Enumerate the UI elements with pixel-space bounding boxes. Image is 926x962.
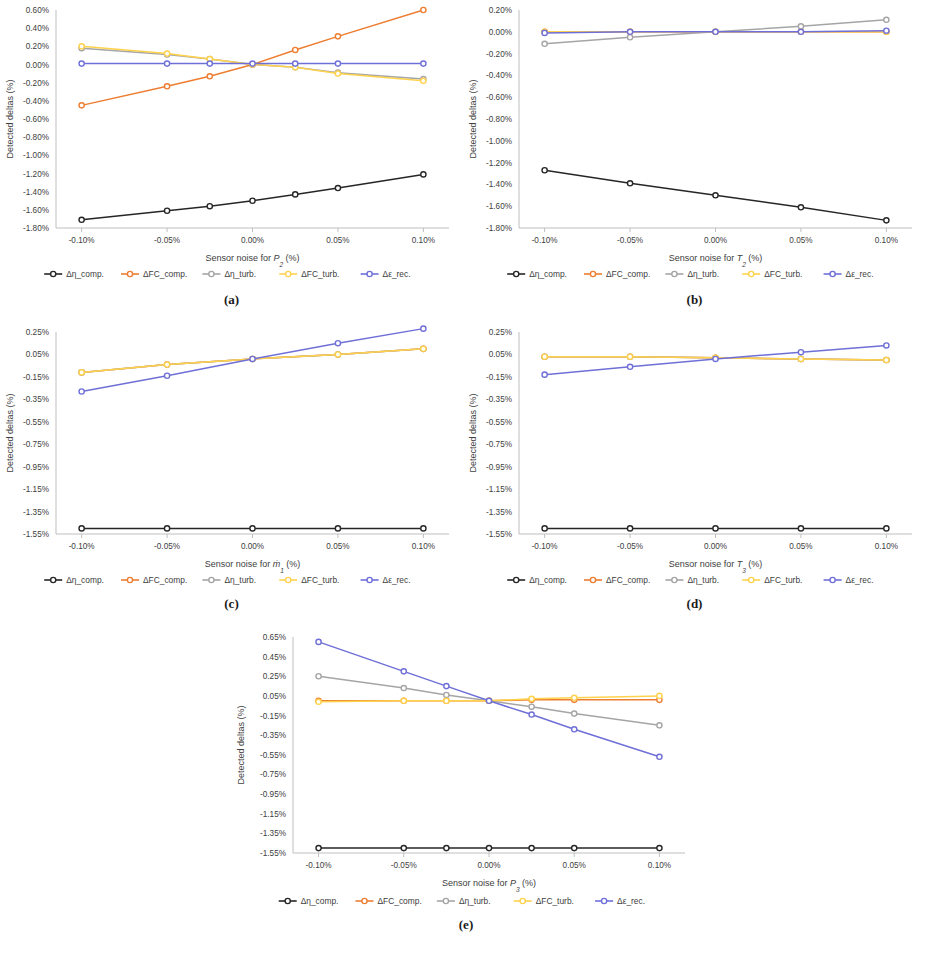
legend-marker-3 xyxy=(286,271,291,276)
chart-panel-b: 0.20%0.00%-0.20%-0.40%-0.60%-0.80%-1.00%… xyxy=(463,0,926,308)
series-marker xyxy=(335,341,340,346)
y-axis-tick-label: -1.35% xyxy=(486,508,512,517)
y-axis-tick-label: 0.00% xyxy=(489,28,512,37)
series-marker xyxy=(486,698,491,703)
y-axis-tick-label: 0.60% xyxy=(26,6,49,15)
legend-marker-1 xyxy=(590,271,595,276)
y-axis-tick-label: -0.80% xyxy=(486,115,512,124)
legend-marker-1 xyxy=(127,577,132,582)
chart-panel-d: 0.25%0.05%-0.15%-0.35%-0.55%-0.75%-0.95%… xyxy=(463,322,926,612)
series-marker xyxy=(627,29,632,34)
legend-label-1: ΔFC_comp. xyxy=(143,269,187,279)
series-marker xyxy=(421,172,426,177)
panel-caption-c: (c) xyxy=(0,596,463,612)
legend-label-1: ΔFC_comp. xyxy=(378,896,422,906)
series-marker xyxy=(798,356,803,361)
legend-label-2: Δη_turb. xyxy=(687,269,719,279)
series-line xyxy=(82,10,424,105)
x-axis-tick-label: 0.05% xyxy=(326,236,349,245)
y-axis-tick-label: -0.60% xyxy=(23,115,49,124)
series-marker xyxy=(713,29,718,34)
x-axis-tick-label: 0.00% xyxy=(241,236,264,245)
y-axis-tick-label: -1.60% xyxy=(23,206,49,215)
chart-e: 0.65%0.45%0.25%0.05%-0.15%-0.35%-0.55%-0… xyxy=(231,625,701,915)
series-marker xyxy=(164,526,169,531)
series-marker xyxy=(542,30,547,35)
y-axis-tick-label: -1.80% xyxy=(23,224,49,233)
x-axis-tick-label: -0.05% xyxy=(154,236,180,245)
chart-d: 0.25%0.05%-0.15%-0.35%-0.55%-0.75%-0.95%… xyxy=(463,322,926,594)
chart-a: 0.60%0.40%0.20%0.00%-0.20%-0.40%-0.60%-0… xyxy=(0,0,463,290)
x-axis-title: Sensor noise for P2 (%) xyxy=(205,253,299,268)
x-axis-tick-label: 0.10% xyxy=(412,542,435,551)
legend-marker-3 xyxy=(749,271,754,276)
series-marker xyxy=(421,346,426,351)
y-axis-tick-label: 0.25% xyxy=(263,672,286,681)
series-marker xyxy=(250,61,255,66)
y-axis-tick-label: -0.55% xyxy=(486,418,512,427)
y-axis-tick-label: -0.60% xyxy=(486,93,512,102)
y-axis-tick-label: -0.20% xyxy=(486,50,512,59)
series-marker xyxy=(207,61,212,66)
chart-panel-c: 0.25%0.05%-0.15%-0.35%-0.55%-0.75%-0.95%… xyxy=(0,322,463,612)
series-marker xyxy=(250,526,255,531)
legend-label-0: Δη_comp. xyxy=(529,269,567,279)
legend-label-4: Δε_rec. xyxy=(383,269,411,279)
series-marker xyxy=(164,84,169,89)
series-marker xyxy=(444,683,449,688)
x-axis-title: Sensor noise for T3 (%) xyxy=(669,559,763,574)
x-axis-tick-label: -0.05% xyxy=(617,542,643,551)
series-marker xyxy=(572,727,577,732)
y-axis-tick-label: -0.15% xyxy=(23,373,49,382)
y-axis-title: Detected deltas (%) xyxy=(5,393,15,472)
series-marker xyxy=(657,754,662,759)
series-marker xyxy=(250,198,255,203)
y-axis-tick-label: -0.95% xyxy=(260,790,286,799)
series-marker xyxy=(798,350,803,355)
series-marker xyxy=(798,29,803,34)
x-axis-title: Sensor noise for ṁ1 (%) xyxy=(205,559,301,574)
series-marker xyxy=(164,373,169,378)
series-marker xyxy=(884,28,889,33)
x-axis-tick-label: -0.10% xyxy=(69,542,95,551)
y-axis-tick-label: -1.35% xyxy=(23,508,49,517)
chart-plot-a: 0.60%0.40%0.20%0.00%-0.20%-0.40%-0.60%-0… xyxy=(0,0,463,290)
chart-legend: Δη_comp.ΔFC_comp.Δη_turb.ΔFC_turb.Δε_rec… xyxy=(279,896,645,906)
series-marker xyxy=(444,698,449,703)
panel-caption-e: (e) xyxy=(231,917,701,933)
legend-marker-0 xyxy=(514,271,519,276)
series-marker xyxy=(627,181,632,186)
chart-legend: Δη_comp.ΔFC_comp.Δη_turb.ΔFC_turb.Δε_rec… xyxy=(507,575,873,585)
y-axis-tick-label: -0.80% xyxy=(23,133,49,142)
legend-label-2: Δη_turb. xyxy=(459,896,491,906)
legend-marker-3 xyxy=(286,577,291,582)
y-axis-tick-label: -1.55% xyxy=(486,530,512,539)
legend-marker-4 xyxy=(367,271,372,276)
x-axis-tick-label: 0.00% xyxy=(704,542,727,551)
x-axis-title: Sensor noise for T2 (%) xyxy=(669,253,763,268)
series-marker xyxy=(335,34,340,39)
x-axis-tick-label: 0.05% xyxy=(789,236,812,245)
series-marker xyxy=(542,526,547,531)
legend-label-1: ΔFC_comp. xyxy=(606,269,650,279)
y-axis-title: Detected deltas (%) xyxy=(5,79,15,158)
legend-marker-1 xyxy=(590,577,595,582)
panel-caption-b: (b) xyxy=(463,292,926,308)
series-marker xyxy=(421,326,426,331)
legend-label-3: ΔFC_turb. xyxy=(301,575,339,585)
x-axis-tick-label: -0.10% xyxy=(532,542,558,551)
y-axis-tick-label: 0.25% xyxy=(489,328,512,337)
series-marker xyxy=(164,208,169,213)
x-axis-tick-label: 0.00% xyxy=(704,236,727,245)
series-marker xyxy=(572,695,577,700)
y-axis-tick-label: 0.40% xyxy=(26,24,49,33)
chart-panel-e: 0.65%0.45%0.25%0.05%-0.15%-0.35%-0.55%-0… xyxy=(231,625,701,933)
y-axis-tick-label: -1.55% xyxy=(23,530,49,539)
legend-marker-0 xyxy=(51,271,56,276)
legend-label-0: Δη_comp. xyxy=(66,575,104,585)
legend-marker-4 xyxy=(830,271,835,276)
chart-legend: Δη_comp.ΔFC_comp.Δη_turb.ΔFC_turb.Δε_rec… xyxy=(507,269,873,279)
x-axis-tick-label: 0.05% xyxy=(563,861,586,870)
legend-marker-0 xyxy=(285,898,290,903)
legend-label-2: Δη_turb. xyxy=(224,269,256,279)
